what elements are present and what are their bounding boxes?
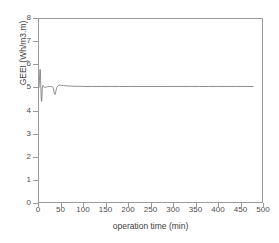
y-tick-mark bbox=[33, 134, 38, 135]
data-line-svg bbox=[39, 19, 262, 202]
chart-figure: 012345678 GEEI (Wh/m3.m) 050100150200250… bbox=[0, 0, 279, 243]
y-tick-mark bbox=[33, 41, 38, 42]
x-tick-mark bbox=[173, 203, 174, 208]
x-tick-mark bbox=[151, 203, 152, 208]
y-tick-label: 3 bbox=[27, 130, 31, 138]
x-tick-mark bbox=[38, 203, 39, 208]
x-tick-mark bbox=[61, 203, 62, 208]
y-axis-title: GEEI (Wh/m3.m) bbox=[18, 0, 28, 116]
data-series-geei bbox=[39, 69, 253, 101]
x-tick-mark bbox=[218, 203, 219, 208]
plot-area bbox=[38, 18, 263, 203]
y-tick-mark bbox=[33, 64, 38, 65]
x-axis-tick-labels: 050100150200250300350400450500 bbox=[0, 205, 279, 219]
x-tick-mark bbox=[83, 203, 84, 208]
y-tick-mark bbox=[33, 180, 38, 181]
x-tick-mark bbox=[196, 203, 197, 208]
y-tick-mark bbox=[33, 111, 38, 112]
y-tick-mark bbox=[33, 87, 38, 88]
y-tick-label: 1 bbox=[27, 176, 31, 184]
y-tick-label: 2 bbox=[27, 153, 31, 161]
x-axis-title: operation time (min) bbox=[38, 221, 263, 231]
x-tick-mark bbox=[263, 203, 264, 208]
x-tick-mark bbox=[106, 203, 107, 208]
y-tick-mark bbox=[33, 18, 38, 19]
y-tick-mark bbox=[33, 157, 38, 158]
x-tick-mark bbox=[241, 203, 242, 208]
x-tick-mark bbox=[128, 203, 129, 208]
